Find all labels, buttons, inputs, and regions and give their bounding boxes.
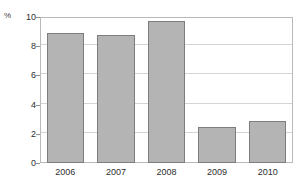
y-tick-mark [36, 134, 40, 135]
x-tick-label: 2007 [91, 166, 142, 178]
x-axis-tick-labels: 20062007200820092010 [40, 166, 293, 182]
y-tick-mark [36, 46, 40, 47]
bar-2007 [97, 35, 134, 163]
y-tick-label: 0 [10, 159, 36, 168]
y-tick-label: 4 [10, 100, 36, 109]
bar-2006 [47, 33, 84, 163]
y-tick-mark [36, 17, 40, 18]
y-tick-mark [36, 105, 40, 106]
x-tick-label: 2006 [40, 166, 91, 178]
bar-chart: % 0246810 20062007200820092010 [0, 0, 306, 196]
bar-2010 [249, 121, 286, 163]
y-tick-label: 10 [10, 13, 36, 22]
x-tick-label: 2008 [141, 166, 192, 178]
bar-2009 [198, 127, 235, 164]
y-axis-tick-labels: 0246810 [0, 0, 36, 196]
y-tick-label: 2 [10, 129, 36, 138]
bar-2008 [148, 21, 185, 163]
y-tick-mark [36, 75, 40, 76]
x-tick-label: 2009 [192, 166, 243, 178]
y-tick-label: 8 [10, 42, 36, 51]
bars-layer [40, 17, 293, 163]
y-tick-label: 6 [10, 71, 36, 80]
x-tick-label: 2010 [242, 166, 293, 178]
y-tick-mark [36, 163, 40, 164]
